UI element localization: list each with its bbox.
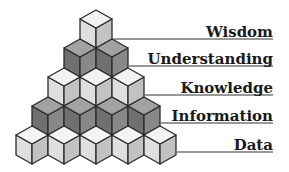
cube [80, 126, 112, 164]
cube [16, 126, 48, 164]
knowledge-label: Knowledge [180, 79, 273, 97]
dikw-pyramid-diagram: Wisdom Understanding Knowledge Informati… [0, 0, 289, 172]
level-information: Information [161, 107, 273, 125]
information-label: Information [172, 107, 274, 125]
understanding-label: Understanding [147, 50, 273, 68]
level-data: Data [177, 136, 273, 154]
cube [144, 126, 176, 164]
level-knowledge: Knowledge [145, 79, 273, 97]
cube [48, 126, 80, 164]
data-label: Data [234, 136, 274, 154]
wisdom-label: Wisdom [205, 23, 273, 41]
level-understanding: Understanding [129, 50, 273, 68]
cube [112, 126, 144, 164]
level-wisdom: Wisdom [113, 23, 273, 41]
cube-pyramid [16, 10, 176, 164]
